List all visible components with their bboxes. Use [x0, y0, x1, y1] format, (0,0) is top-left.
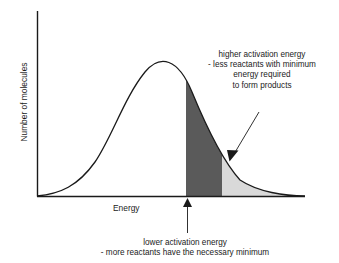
- higher-activation-energy-arrowhead: [227, 150, 239, 162]
- higher-activation-energy-annotation: higher activation energy - less reactant…: [186, 50, 338, 91]
- higher-activation-energy-arrow-line: [234, 112, 259, 154]
- y-axis-label: Number of molecules: [19, 42, 29, 162]
- lower-activation-energy-annotation: lower activation energy - more reactants…: [40, 238, 330, 258]
- chart-canvas: [0, 0, 339, 263]
- higher-activation-energy-shaded-region: [222, 10, 306, 196]
- lower-annotation-line-2: - more reactants have the necessary mini…: [40, 248, 330, 258]
- lower-activation-energy-shaded-region: [186, 10, 222, 196]
- higher-annotation-line-1: higher activation energy: [186, 50, 338, 60]
- maxwell-boltzmann-distribution-figure: Number of molecules Energy higher activa…: [0, 0, 339, 263]
- x-axis-label: Energy: [113, 203, 140, 213]
- higher-annotation-line-4: to form products: [186, 81, 338, 91]
- lower-activation-energy-arrowhead: [183, 198, 192, 207]
- higher-annotation-line-2: - less reactants with minimum: [186, 60, 338, 70]
- higher-annotation-line-3: energy required: [186, 70, 338, 80]
- lower-annotation-line-1: lower activation energy: [40, 238, 330, 248]
